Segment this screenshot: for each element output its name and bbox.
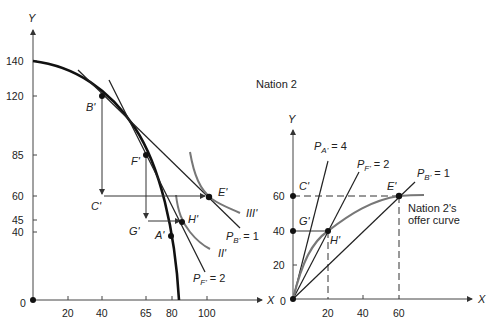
price-line-pf xyxy=(109,80,205,272)
ytick-40: 40 xyxy=(12,226,24,238)
xtick-100: 100 xyxy=(198,307,216,319)
label-pa-right: PA' = 4 xyxy=(314,140,347,155)
ytick-45: 45 xyxy=(12,214,24,226)
xtick-80: 80 xyxy=(166,307,178,319)
right-ytick-40: 40 xyxy=(273,225,285,237)
offer-curve xyxy=(293,195,424,299)
right-xtick-20: 20 xyxy=(322,307,334,319)
left-origin-label: 0 xyxy=(20,297,26,309)
left-y-ticks: 140 120 85 60 45 40 xyxy=(6,55,37,238)
label-c-right: C' xyxy=(299,180,310,192)
label-ii: II' xyxy=(218,247,227,259)
label-pf-right: PF' = 2 xyxy=(357,158,389,173)
xtick-65: 65 xyxy=(140,307,152,319)
point-c-right xyxy=(290,193,296,199)
point-e xyxy=(206,194,212,200)
label-h-right: H' xyxy=(330,234,341,246)
label-pb-left: PB' = 1 xyxy=(226,230,259,245)
label-g: G' xyxy=(129,225,141,237)
point-e-right xyxy=(396,193,402,199)
trade-diagram: Y X 0 140 120 85 60 45 40 20 40 xyxy=(0,0,497,328)
left-origin-dot xyxy=(30,297,36,303)
ray-pb xyxy=(293,182,415,299)
right-origin-dot xyxy=(290,296,296,302)
left-y-label: Y xyxy=(28,12,36,24)
offer-curve-label-1: Nation 2's xyxy=(408,202,457,214)
point-b xyxy=(99,93,105,99)
right-xtick-60: 60 xyxy=(393,307,405,319)
point-h xyxy=(179,219,185,225)
point-f xyxy=(143,152,149,158)
xtick-40: 40 xyxy=(96,307,108,319)
left-panel: Y X 0 140 120 85 60 45 40 20 40 xyxy=(6,12,275,319)
label-pf-left: PF' = 2 xyxy=(193,272,225,287)
point-g-right xyxy=(290,228,296,234)
xtick-20: 20 xyxy=(62,307,74,319)
right-panel: Y X 0 20 40 60 20 40 60 C' G' H' E' xyxy=(273,113,486,319)
ytick-140: 140 xyxy=(6,55,24,67)
label-a: A' xyxy=(154,229,165,241)
point-a xyxy=(168,233,174,239)
ytick-120: 120 xyxy=(6,90,24,102)
ytick-60: 60 xyxy=(12,190,24,202)
label-pb-right: PB' = 1 xyxy=(417,167,450,182)
left-x-label: X xyxy=(266,294,275,306)
offer-curve-label-2: offer curve xyxy=(408,214,460,226)
ytick-85: 85 xyxy=(12,149,24,161)
right-xtick-40: 40 xyxy=(357,307,369,319)
label-h: H' xyxy=(188,213,199,225)
right-ytick-60: 60 xyxy=(273,190,285,202)
label-g-right: G' xyxy=(299,215,311,227)
label-f: F' xyxy=(131,155,141,167)
right-x-label: X xyxy=(477,293,486,305)
right-ytick-20: 20 xyxy=(273,259,285,271)
right-origin-label: 0 xyxy=(280,295,286,307)
label-e: E' xyxy=(218,186,228,198)
title: Nation 2 xyxy=(256,78,297,90)
label-iii: III' xyxy=(246,207,258,219)
right-y-label: Y xyxy=(288,113,296,125)
label-e-right: E' xyxy=(387,180,397,192)
left-x-ticks: 20 40 65 80 100 xyxy=(62,296,216,319)
label-c: C' xyxy=(91,200,102,212)
label-b: B' xyxy=(86,101,96,113)
